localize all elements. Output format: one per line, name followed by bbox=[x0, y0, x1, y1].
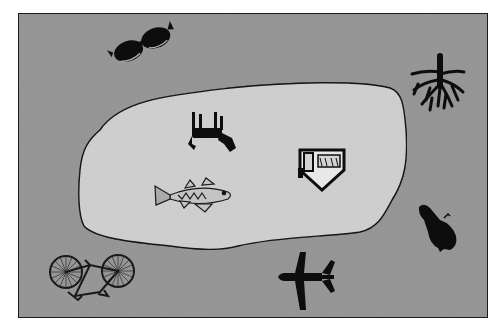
figure-canvas bbox=[0, 0, 504, 330]
figure-svg bbox=[0, 0, 504, 330]
enclosed-region bbox=[79, 83, 407, 250]
